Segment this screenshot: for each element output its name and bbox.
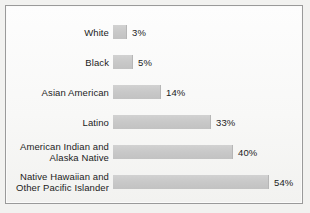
bar-category-label: Asian American (9, 87, 109, 98)
bar-value-label: 5% (138, 57, 152, 68)
bar-row: Latino 33% (7, 107, 301, 137)
bar-fill (113, 25, 127, 39)
bar-row: White 3% (7, 17, 301, 47)
bar-fill (113, 55, 133, 69)
bar-row: American Indian and Alaska Native 40% (7, 137, 301, 167)
bar-fill (113, 145, 233, 159)
bar-value-label: 40% (238, 147, 257, 158)
bar-row: Black 5% (7, 47, 301, 77)
bar-fill (113, 115, 211, 129)
bar-fill (113, 85, 161, 99)
bar-category-label: American Indian and Alaska Native (9, 141, 109, 163)
bar-category-label: White (9, 27, 109, 38)
bar-row: Asian American 14% (7, 77, 301, 107)
bar-track: 40% (113, 145, 257, 159)
bar-category-label: Latino (9, 117, 109, 128)
bar-value-label: 33% (216, 117, 235, 128)
bar-value-label: 54% (274, 177, 293, 188)
bar-fill (113, 175, 269, 189)
bar-category-label: Native Hawaiian and Other Pacific Island… (9, 171, 109, 193)
bar-value-label: 3% (132, 27, 146, 38)
bar-row: Native Hawaiian and Other Pacific Island… (7, 167, 301, 197)
chart-plot-area: White 3% Black 5% Asian American 14% Lat… (7, 7, 301, 202)
bar-track: 33% (113, 115, 235, 129)
bar-track: 14% (113, 85, 185, 99)
bar-track: 3% (113, 25, 146, 39)
chart-panel: White 3% Black 5% Asian American 14% Lat… (5, 5, 303, 204)
bar-track: 54% (113, 175, 293, 189)
bar-category-label: Black (9, 57, 109, 68)
bar-value-label: 14% (166, 87, 185, 98)
bar-track: 5% (113, 55, 152, 69)
